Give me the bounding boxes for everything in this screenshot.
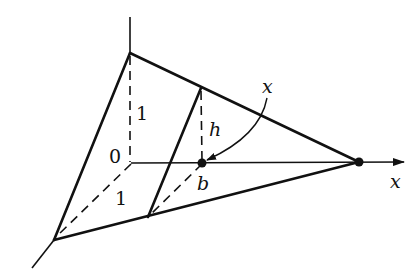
label-origin: 0 — [109, 145, 121, 167]
y-axis-extension — [32, 240, 54, 268]
label-b: b — [197, 172, 209, 194]
dashed-slice-depth — [150, 164, 202, 215]
label-h: h — [209, 118, 221, 140]
slice-edge — [148, 88, 201, 217]
dashed-slice-height — [201, 91, 202, 161]
label-depth-one: 1 — [115, 187, 127, 209]
label-pointer-x: x — [262, 75, 273, 97]
label-height-one: 1 — [136, 102, 148, 124]
point-b — [198, 159, 207, 168]
pyramid-diagram: 1 0 1 h b x x — [0, 0, 415, 273]
point-tip — [355, 158, 364, 167]
edge-apex-to-tip — [130, 53, 359, 162]
label-axis-x: x — [390, 170, 401, 192]
